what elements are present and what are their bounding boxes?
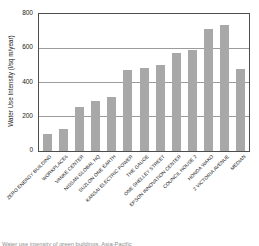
y-tick-label: 600 bbox=[0, 43, 33, 51]
figure-root: Water Use Intensity (l/sq m/year) 020040… bbox=[0, 0, 259, 246]
bar-workplace6 bbox=[59, 129, 68, 151]
y-tick-label: 0 bbox=[0, 146, 33, 154]
bar-epson-innovation-center bbox=[172, 53, 181, 151]
bar-council-house-2 bbox=[188, 50, 197, 151]
y-tick-labels: 0200400600800 bbox=[0, 13, 33, 150]
bar-honda-wako bbox=[204, 29, 213, 151]
x-axis-label: MEDIAN bbox=[229, 154, 246, 171]
y-tick-label: 800 bbox=[0, 9, 33, 17]
bar-median bbox=[236, 69, 245, 151]
figure-caption-clipped: Water use intensity of green buildings, … bbox=[2, 241, 132, 246]
plot-area bbox=[38, 13, 250, 152]
gridline bbox=[39, 48, 249, 49]
y-tick-label: 400 bbox=[0, 78, 33, 86]
y-tick-label: 200 bbox=[0, 112, 33, 120]
bar-suzlon-one-earth bbox=[107, 97, 116, 151]
bar-one-shelley-street bbox=[156, 65, 165, 151]
bar-kansai-electric-power bbox=[123, 70, 132, 151]
bar-the-gauge bbox=[140, 68, 149, 151]
bar-2-victoria-avenue bbox=[220, 25, 229, 151]
bar-vanke-center bbox=[75, 107, 84, 151]
bar-nissan-global-hq bbox=[91, 101, 100, 151]
bar-zero-energy-building bbox=[43, 134, 52, 151]
